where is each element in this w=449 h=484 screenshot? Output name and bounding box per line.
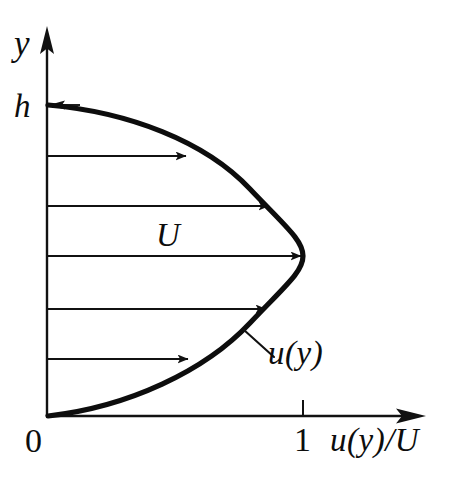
velocity-profile-figure: y h U u(y) 0 1 u(y)/U [0, 0, 449, 484]
x-tick-one-label: 1 [294, 423, 311, 457]
profile-function-label: u(y) [268, 337, 323, 370]
velocity-profile-curve [48, 105, 303, 416]
mean-velocity-label: U [156, 219, 180, 252]
x-axis-label: u(y)/U [330, 424, 419, 457]
y-axis [40, 26, 54, 416]
figure-canvas [0, 0, 449, 484]
origin-label: 0 [25, 424, 42, 458]
y-axis-label: y [14, 26, 30, 61]
velocity-vector-group [48, 156, 301, 359]
channel-height-label: h [14, 90, 31, 123]
